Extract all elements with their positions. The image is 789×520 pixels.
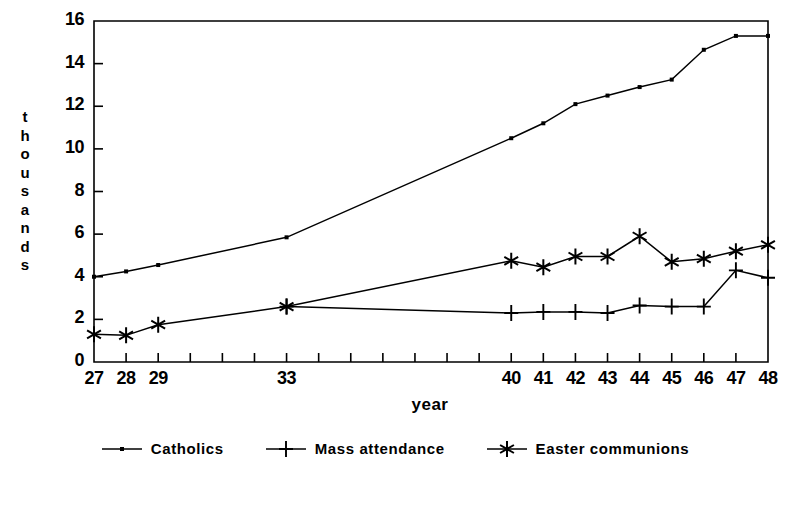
x-axis-tick-label: 33 [267, 368, 307, 389]
y-axis-tick-label: 4 [38, 265, 84, 286]
y-axis-tick-label: 8 [38, 180, 84, 201]
legend-item-catholics[interactable]: Catholics [100, 440, 224, 457]
y-axis-tick-label: 10 [38, 137, 84, 158]
data-point-marker [606, 94, 610, 98]
data-point-marker [633, 228, 647, 244]
data-point-marker [734, 34, 738, 38]
data-point-marker [670, 78, 674, 82]
y-axis-tick-label: 2 [38, 307, 84, 328]
legend-label: Mass attendance [315, 440, 445, 457]
data-point-marker [638, 85, 642, 89]
x-axis-tick-label: 48 [748, 368, 788, 389]
data-point-marker [665, 299, 679, 315]
y-axis-tick-label: 14 [38, 52, 84, 73]
series-line [94, 36, 768, 277]
data-point-marker [124, 269, 128, 273]
legend-marker-glyph [120, 447, 124, 451]
series-line [94, 236, 768, 335]
data-point-marker [156, 263, 160, 267]
data-point-marker [285, 235, 289, 239]
legend-label: Catholics [151, 440, 224, 457]
data-point-marker [601, 305, 615, 321]
data-point-marker [573, 102, 577, 106]
data-point-marker [761, 237, 775, 253]
x-axis-tick-label: 29 [138, 368, 178, 389]
data-point-marker [568, 304, 582, 320]
y-axis-tick-label: 16 [38, 9, 84, 30]
legend-marker-dot-icon [100, 441, 144, 457]
legend-item-easter-communions[interactable]: Easter communions [485, 440, 690, 457]
legend-marker-asterisk-icon [485, 441, 529, 457]
data-point-marker [633, 298, 647, 314]
data-point-marker [541, 121, 545, 125]
y-axis-tick-label: 12 [38, 94, 84, 115]
data-point-marker [536, 259, 550, 275]
series-catholics [92, 34, 770, 279]
data-point-marker [504, 305, 518, 321]
chart-figure: thousands CatholicsMass attendanceEaster… [0, 0, 789, 520]
data-point-marker [702, 48, 706, 52]
legend-item-mass-attendance[interactable]: Mass attendance [264, 440, 445, 457]
data-point-marker [92, 275, 96, 279]
data-point-marker [536, 304, 550, 320]
series-mass-attendance [280, 262, 775, 321]
data-point-marker [504, 253, 518, 269]
legend-marker-glyph [279, 441, 293, 457]
series-easter-communions [87, 228, 775, 343]
legend-label: Easter communions [536, 440, 690, 457]
x-axis-title: year [355, 395, 505, 415]
data-point-marker [761, 270, 775, 286]
legend-marker-plus-icon [264, 441, 308, 457]
y-axis-tick-label: 6 [38, 222, 84, 243]
data-point-marker [509, 136, 513, 140]
chart-legend: CatholicsMass attendanceEaster communion… [0, 440, 789, 457]
data-point-marker [766, 34, 770, 38]
data-point-marker [729, 243, 743, 259]
